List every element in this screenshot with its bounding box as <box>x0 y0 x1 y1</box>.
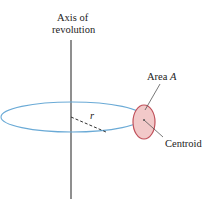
area-label-text: Area <box>147 71 167 82</box>
radius-line <box>71 117 106 132</box>
area-symbol: A <box>170 71 176 82</box>
centroid-label: Centroid <box>165 138 202 150</box>
radius-label: r <box>90 110 94 122</box>
theorem-of-pappus-diagram <box>0 0 212 199</box>
centroid-point <box>143 119 145 121</box>
area-a-shape <box>133 105 155 139</box>
axis-label-line1: Axis of <box>57 12 88 24</box>
area-label: Area A <box>147 71 176 83</box>
axis-label-line2: revolution <box>52 24 95 36</box>
area-leader-line <box>145 84 160 110</box>
